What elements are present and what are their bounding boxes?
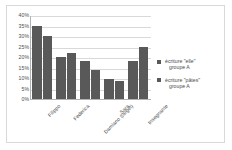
y-axis-tick-label: 40% <box>9 13 29 18</box>
x-axis-tick-label: Federica <box>72 103 91 122</box>
bar-group <box>103 16 127 99</box>
legend-swatch-icon <box>157 60 161 64</box>
x-axis: FilippoFedericaDamiano (target)SaraInseg… <box>30 101 151 143</box>
legend-swatch-icon <box>157 78 161 82</box>
bar[interactable] <box>139 47 148 100</box>
y-axis-tick-label: 25% <box>9 45 29 50</box>
bar[interactable] <box>128 61 137 99</box>
x-axis-tick-label: Filippo <box>47 103 62 118</box>
y-axis-tick-label: 20% <box>9 55 29 60</box>
chart-legend: écriture "elle"groupe Aécriture "pâtes"g… <box>157 58 223 96</box>
y-axis-tick-label: 35% <box>9 24 29 29</box>
legend-label-secondary: groupe A <box>165 64 223 70</box>
y-axis-tick-label: 5% <box>9 87 29 92</box>
y-axis-tick-label: 30% <box>9 34 29 39</box>
bar[interactable] <box>32 26 41 100</box>
bar-group <box>127 16 151 99</box>
x-axis-tick-label: Insegnante <box>146 103 168 125</box>
chart-plot-wrapper: 40%35%30%25%20%15%10%5%0% FilippoFederic… <box>7 6 226 144</box>
bar[interactable] <box>43 36 52 99</box>
bars-layer <box>31 16 151 99</box>
y-axis-tick-label: 0% <box>9 97 29 102</box>
bar-group <box>55 16 79 99</box>
plot-area <box>30 16 151 100</box>
legend-entry[interactable]: écriture "elle"groupe A <box>157 58 223 71</box>
bar-group <box>79 16 103 99</box>
bar[interactable] <box>56 57 65 99</box>
bar[interactable] <box>104 79 113 99</box>
legend-entry[interactable]: écriture "pâtes"groupe A <box>157 77 223 90</box>
chart-frame: 40%35%30%25%20%15%10%5%0% FilippoFederic… <box>6 5 225 143</box>
y-axis: 40%35%30%25%20%15%10%5%0% <box>9 16 29 100</box>
y-axis-tick-label: 15% <box>9 66 29 71</box>
bar[interactable] <box>67 53 76 99</box>
bar-group <box>31 16 55 99</box>
bar[interactable] <box>91 70 100 99</box>
bar[interactable] <box>80 61 89 99</box>
bar[interactable] <box>115 81 124 99</box>
legend-label-secondary: groupe A <box>165 83 223 89</box>
y-axis-tick-label: 10% <box>9 76 29 81</box>
